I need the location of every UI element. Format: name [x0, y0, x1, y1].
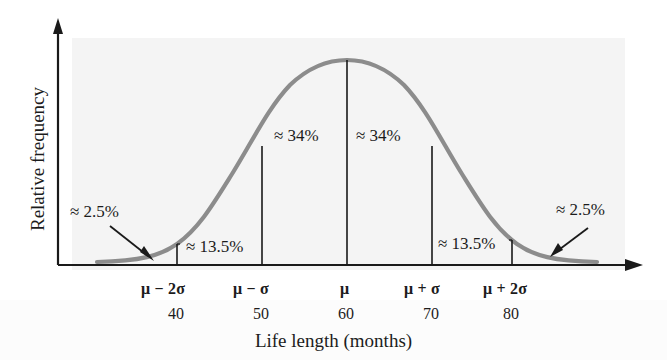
tick-label-mu-plus-sigma: μ + σ: [404, 280, 440, 298]
right-tail-arrow: [550, 228, 588, 257]
tick-value-70: 70: [423, 305, 439, 323]
x-axis-label: Life length (months): [0, 330, 667, 352]
annotation-right-mid-percent: ≈ 13.5%: [438, 234, 496, 254]
tick-label-mu-plus-2sigma: μ + 2σ: [483, 280, 527, 298]
tick-label-mu-minus-2sigma: μ − 2σ: [141, 280, 185, 298]
normal-curve-plot: [0, 0, 667, 360]
tick-value-60: 60: [338, 305, 354, 323]
annotation-center-right-percent: ≈ 34%: [356, 126, 401, 146]
y-axis-label: Relative frequency: [27, 59, 49, 259]
tick-label-mu-minus-sigma: μ − σ: [233, 280, 269, 298]
annotation-left-tail-percent: ≈ 2.5%: [70, 202, 119, 222]
tick-label-mu: μ: [340, 280, 349, 298]
left-tail-arrow: [110, 226, 154, 261]
y-axis: [53, 18, 63, 265]
annotation-left-mid-percent: ≈ 13.5%: [186, 237, 244, 257]
tick-value-80: 80: [503, 305, 519, 323]
annotation-right-tail-percent: ≈ 2.5%: [556, 200, 605, 220]
tick-value-40: 40: [168, 305, 184, 323]
tick-value-50: 50: [253, 305, 269, 323]
figure-canvas: Relative frequency Life length (months) …: [0, 0, 667, 360]
annotation-center-left-percent: ≈ 34%: [274, 126, 319, 146]
